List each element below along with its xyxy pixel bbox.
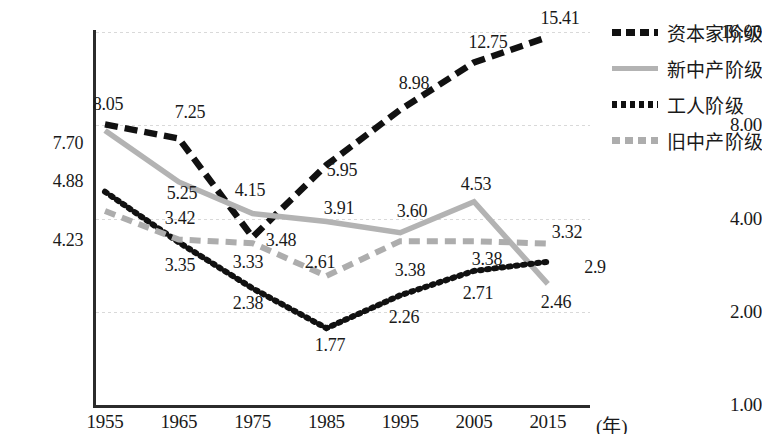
data-point-label: 4.23 — [53, 230, 83, 251]
data-point-label: 7.70 — [53, 133, 83, 154]
data-point-label: 3.38 — [472, 249, 502, 270]
chart-legend: 资本家阶级新中产阶级工人阶级旧中产阶级 — [612, 14, 762, 158]
data-point-label: 5.95 — [327, 160, 357, 181]
data-point-label: 3.32 — [552, 222, 582, 243]
legend-item-label: 工人阶级 — [667, 91, 744, 118]
legend-item-旧中产阶级[interactable]: 旧中产阶级 — [612, 122, 762, 158]
legend-item-label: 旧中产阶级 — [667, 127, 762, 154]
data-point-label: 3.60 — [397, 201, 427, 222]
x-axis-tick-label: 1995 — [365, 411, 435, 433]
legend-swatch-working-icon — [612, 101, 658, 108]
legend-item-label: 新中产阶级 — [667, 55, 762, 82]
data-point-label: 4.53 — [461, 174, 491, 195]
data-point-label: 2.61 — [305, 252, 335, 273]
x-axis-tick-label: 2015 — [513, 411, 583, 433]
legend-item-资本家阶级[interactable]: 资本家阶级 — [612, 14, 762, 50]
x-axis-tick-label: 1975 — [218, 411, 288, 433]
legend-item-新中产阶级[interactable]: 新中产阶级 — [612, 50, 762, 86]
data-point-label: 12.75 — [468, 32, 507, 53]
data-point-label: 4.88 — [53, 171, 83, 192]
chart-container: 1.002.004.008.0016.00 8.057.253.485.958.… — [0, 0, 762, 434]
data-point-label: 2.9 — [584, 257, 606, 278]
data-point-label: 3.42 — [165, 208, 195, 229]
data-point-label: 3.35 — [165, 255, 195, 276]
legend-item-工人阶级[interactable]: 工人阶级 — [612, 86, 762, 122]
x-axis-unit-label: (年) — [596, 411, 628, 434]
legend-swatch-old-middle-icon — [612, 137, 658, 144]
data-point-label: 15.41 — [540, 8, 579, 29]
data-point-label: 7.25 — [175, 102, 205, 123]
legend-item-label: 资本家阶级 — [667, 19, 762, 46]
data-point-label: 8.05 — [93, 94, 123, 115]
data-point-label: 3.91 — [324, 198, 354, 219]
x-axis-tick-label: 1985 — [291, 411, 361, 433]
data-point-label: 2.26 — [389, 307, 419, 328]
data-point-label: 2.38 — [233, 293, 263, 314]
x-axis-tick-label: 1965 — [144, 411, 214, 433]
data-point-label: 3.33 — [233, 252, 263, 273]
data-point-label: 1.77 — [315, 335, 345, 356]
x-axis-tick-label: 2005 — [439, 411, 509, 433]
x-axis-tick-label: 1955 — [70, 411, 140, 433]
data-point-label: 4.15 — [235, 180, 265, 201]
data-point-label: 2.46 — [541, 292, 571, 313]
data-point-label: 2.71 — [463, 283, 493, 304]
legend-swatch-capitalist-icon — [612, 29, 658, 36]
data-point-label: 8.98 — [399, 73, 429, 94]
data-point-label: 3.48 — [266, 230, 296, 251]
data-point-label: 5.25 — [167, 183, 197, 204]
legend-swatch-new-middle-icon — [612, 66, 658, 71]
data-point-label: 3.38 — [395, 260, 425, 281]
